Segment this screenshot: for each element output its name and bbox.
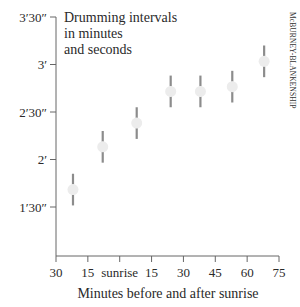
x-tick-label: 60 [241,265,254,280]
data-point [97,131,108,163]
data-points [67,46,269,206]
data-point [259,46,270,78]
y-tick-label: 1′30″ [19,200,47,215]
chart-title-line: in minutes [64,26,123,41]
y-tick-label: 3′ [38,57,48,72]
x-axis: 3015sunrise1530456075 [50,256,286,280]
point-marker [195,86,206,97]
x-tick-label: sunrise [101,265,138,280]
x-axis-label: Minutes before and after sunrise [77,286,258,301]
x-tick-label: 45 [209,265,222,280]
data-point [165,76,176,108]
point-marker [227,81,238,92]
data-point [227,71,238,103]
x-tick-label: 15 [81,265,94,280]
x-tick-label: 15 [145,265,158,280]
y-tick-label: 3′30″ [19,10,47,25]
x-tick-label: 30 [50,265,63,280]
chart: 1′30″2′2′30″3′3′30″ 3015sunrise153045607… [0,0,300,307]
point-marker [97,141,108,152]
chart-title-line: Drumming intervals [64,10,177,25]
x-tick-label: 30 [177,265,190,280]
data-point [131,107,142,139]
chart-title: Drumming intervalsin minutesand seconds [64,10,177,57]
y-tick-label: 2′30″ [19,105,47,120]
point-marker [131,118,142,129]
point-marker [165,86,176,97]
data-point [195,76,206,108]
data-point [67,174,78,206]
chart-title-line: and seconds [64,42,132,57]
photo-credit: McBURNEY-BLANKENSHIP [288,12,297,109]
y-axis: 1′30″2′2′30″3′3′30″ [19,10,56,257]
point-marker [67,184,78,195]
point-marker [259,56,270,67]
x-tick-label: 75 [273,265,286,280]
y-tick-label: 2′ [38,152,48,167]
